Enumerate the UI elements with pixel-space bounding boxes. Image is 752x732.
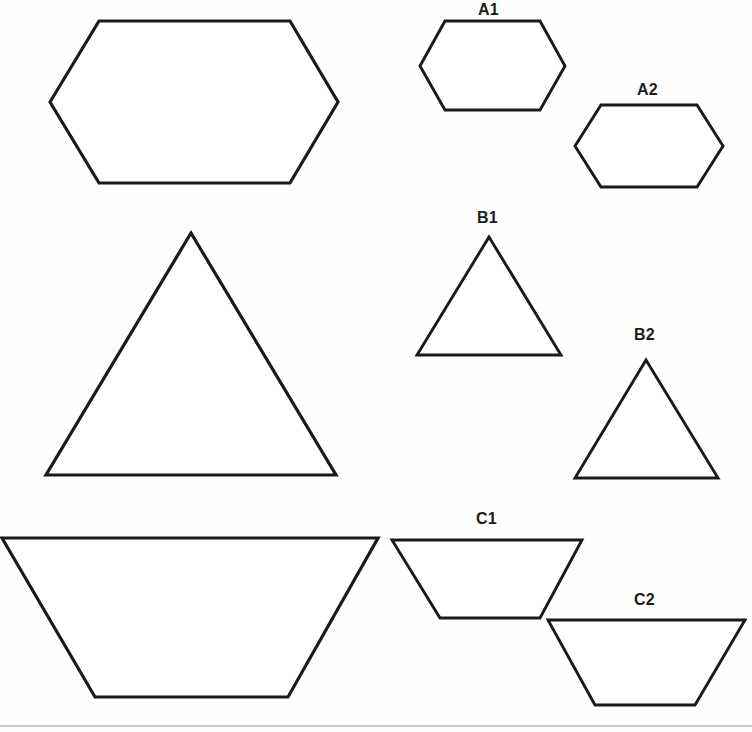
hexagon-a1 [420,21,565,110]
worksheet-canvas: A1 A2 B1 B2 C1 C2 [0,0,752,732]
hexagon-a2 [575,105,723,187]
large-triangle [46,233,336,475]
trapezoid-c2 [548,620,745,705]
label-b1: B1 [477,210,498,226]
triangle-b2 [575,360,718,478]
label-b2: B2 [634,327,655,343]
shapes-svg-layer [0,0,752,732]
trapezoid-c1 [392,540,582,618]
large-hexagon [50,21,338,183]
triangle-b1 [417,237,561,355]
label-a1: A1 [478,2,499,18]
label-c1: C1 [476,511,497,527]
label-c2: C2 [634,592,655,608]
label-a2: A2 [637,82,658,98]
large-trapezoid [2,538,378,697]
